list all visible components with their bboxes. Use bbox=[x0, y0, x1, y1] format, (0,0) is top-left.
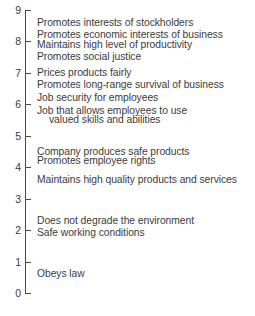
scale-item-label: Does not degrade the environment bbox=[37, 215, 194, 226]
scale-item-label: Maintains high level of productivity bbox=[37, 39, 192, 50]
scale-item-label: valued skills and abilities bbox=[49, 114, 160, 125]
scale-item-label: Safe working conditions bbox=[37, 227, 145, 238]
scale-item-label: Maintains high quality products and serv… bbox=[37, 174, 237, 185]
scale-item-label: Promotes interests of stockholders bbox=[37, 17, 193, 28]
scale-item-label: Promotes employee rights bbox=[37, 155, 155, 166]
scale-item-label: Prices products fairly bbox=[37, 67, 131, 78]
scale-item-label: Obeys law bbox=[37, 268, 85, 279]
item-label-list: Promotes interests of stockholdersPromot… bbox=[0, 0, 255, 316]
scale-item-label: Promotes social justice bbox=[37, 51, 141, 62]
rating-scale-chart: 0123456789 Promotes interests of stockho… bbox=[0, 0, 255, 316]
scale-item-label: Promotes long-range survival of business bbox=[37, 79, 224, 90]
scale-item-label: Job security for employees bbox=[37, 92, 158, 103]
